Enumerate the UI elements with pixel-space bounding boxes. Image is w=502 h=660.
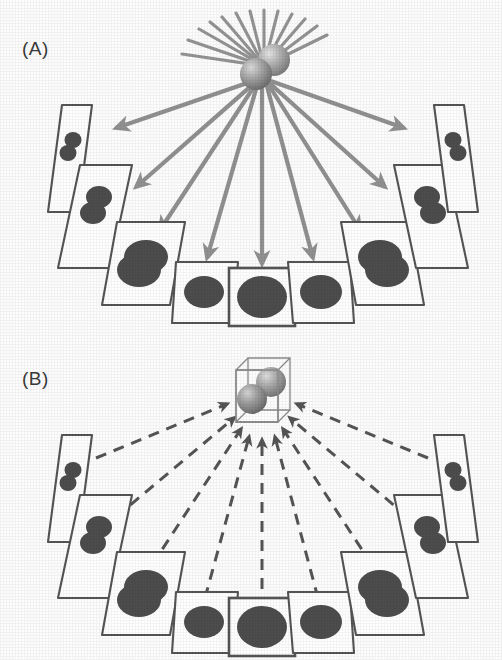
- projection-blob: [60, 145, 77, 161]
- panel-a-forward-projection: (A): [0, 0, 502, 330]
- projection-panel-2[interactable]: [102, 222, 185, 305]
- arrow-from-projection-8: [297, 404, 428, 458]
- panel-b-canvas: [0, 330, 502, 660]
- projection-blob: [365, 583, 409, 617]
- projection-blob: [450, 475, 467, 491]
- projection-blob: [117, 253, 161, 287]
- arrow-to-projection-0: [116, 79, 259, 128]
- projection-blob: [300, 605, 342, 639]
- projection-blob: [300, 275, 342, 309]
- projection-blob: [420, 532, 446, 554]
- projection-blob: [450, 145, 467, 161]
- panel-b-back-projection: (B): [0, 330, 502, 660]
- tomography-figure: (A): [0, 0, 502, 660]
- arrow-from-projection-0: [96, 404, 227, 458]
- arrow-to-projection-3: [207, 79, 259, 258]
- projection-blob: [80, 532, 106, 554]
- projection-panel-5[interactable]: [288, 592, 354, 653]
- projection-blob: [184, 276, 224, 308]
- projection-panel-4[interactable]: [229, 598, 295, 656]
- arrow-from-projection-3: [205, 437, 249, 598]
- projection-blob: [365, 253, 409, 287]
- arrow-to-projection-8: [265, 79, 404, 128]
- projection-blob: [184, 606, 224, 638]
- projection-blob: [60, 475, 77, 491]
- arrow-from-projection-5: [275, 437, 318, 598]
- projection-panel-2[interactable]: [102, 552, 185, 635]
- source-rays: [182, 10, 327, 66]
- projection-blob: [420, 202, 446, 224]
- projection-blob: [237, 606, 287, 648]
- panel-a-canvas: [0, 0, 502, 330]
- projection-blob: [117, 583, 161, 617]
- projection-panel-5[interactable]: [288, 262, 354, 323]
- projection-panel-4[interactable]: [229, 268, 295, 326]
- projection-blob: [237, 276, 287, 318]
- reconstructed-volume-box[interactable]: [236, 358, 290, 422]
- projection-blob: [80, 202, 106, 224]
- arrow-to-projection-5: [265, 79, 313, 258]
